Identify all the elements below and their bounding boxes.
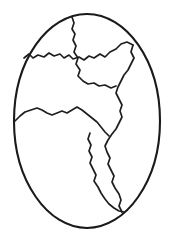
cracked-egg-illustration: [0, 0, 174, 238]
egg-shell-outline: [14, 14, 160, 228]
artwork-canvas: [0, 0, 174, 238]
